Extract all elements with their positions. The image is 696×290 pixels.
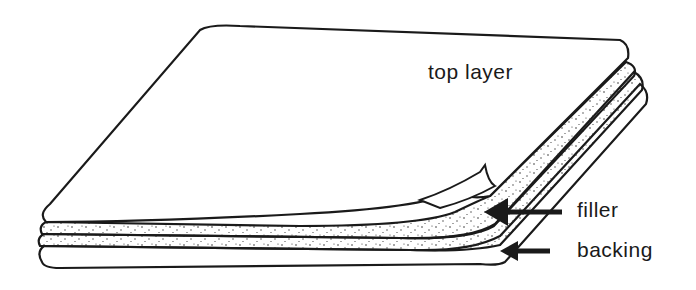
filler-label: filler [577, 198, 619, 222]
backing-label: backing [577, 238, 653, 262]
top-layer-label: top layer [428, 60, 513, 84]
